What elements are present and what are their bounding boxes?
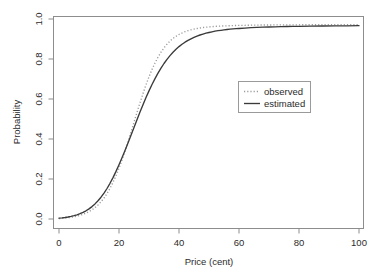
x-tick-label-80: 80 bbox=[294, 237, 305, 248]
legend-label-estimated: estimated bbox=[264, 98, 305, 109]
y-tick-label-0-4: 0.4 bbox=[33, 132, 44, 145]
estimated-curve bbox=[59, 26, 359, 219]
x-tick-label-20: 20 bbox=[114, 237, 125, 248]
y-tick-label-1-0: 1.0 bbox=[33, 12, 44, 25]
x-tick-label-100: 100 bbox=[351, 237, 367, 248]
x-tick-label-40: 40 bbox=[174, 237, 185, 248]
chart-figure: 0 20 40 60 80 100 0.0 0.2 0.4 0.6 0.8 1.… bbox=[0, 0, 386, 275]
plot-frame bbox=[54, 17, 364, 229]
y-axis-ticks bbox=[49, 19, 54, 219]
chart-legend: observed estimated bbox=[239, 82, 311, 113]
x-axis-title: Price (cent) bbox=[185, 256, 234, 267]
x-tick-label-0: 0 bbox=[56, 237, 61, 248]
y-tick-label-0-6: 0.6 bbox=[33, 92, 44, 105]
y-tick-label-0-0: 0.0 bbox=[33, 212, 44, 225]
y-axis-title: Probability bbox=[11, 100, 22, 145]
probability-price-line-chart: 0 20 40 60 80 100 0.0 0.2 0.4 0.6 0.8 1.… bbox=[0, 0, 386, 275]
x-tick-label-60: 60 bbox=[234, 237, 245, 248]
y-tick-label-0-2: 0.2 bbox=[33, 172, 44, 185]
legend-label-observed: observed bbox=[264, 86, 303, 97]
x-axis-ticks bbox=[59, 229, 359, 234]
y-tick-label-0-8: 0.8 bbox=[33, 52, 44, 65]
observed-curve bbox=[59, 25, 359, 219]
